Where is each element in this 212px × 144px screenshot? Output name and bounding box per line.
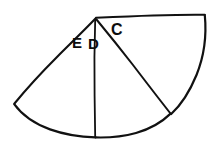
vertex-label-c: C: [111, 22, 122, 37]
arc-right: [171, 15, 205, 114]
arc-left: [14, 104, 95, 137]
radius-left-line: [15, 19, 96, 104]
vertex-label-d: D: [88, 36, 98, 51]
radius-right-inner-line: [97, 20, 171, 114]
arc-middle: [95, 114, 170, 138]
vertex-label-e: E: [72, 35, 82, 50]
figure-canvas: [0, 0, 212, 144]
radius-right-outer-line: [96, 15, 205, 18]
sector-diagram-figure: E D C: [0, 0, 212, 144]
